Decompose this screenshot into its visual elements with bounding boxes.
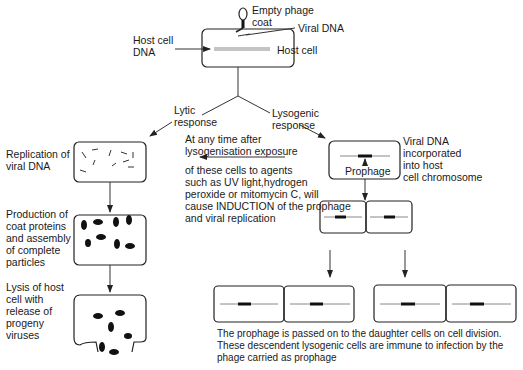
label-line: Empty phage xyxy=(252,4,314,16)
progeny-viruses-icon xyxy=(93,310,132,355)
viral-dna-incorporated-label: Viral DNA incorporated into host cell ch… xyxy=(403,135,482,183)
caption-line: The prophage is passed on to the daughte… xyxy=(217,328,503,340)
host-cell-label: Host cell xyxy=(277,44,317,56)
label-line: of these cells to agents xyxy=(185,164,351,176)
label-line: Replication of xyxy=(6,148,70,160)
label-line: and viral replication xyxy=(185,212,351,224)
induction-note-body: of these cells to agents such as UV ligh… xyxy=(185,164,351,224)
label-line: progeny xyxy=(6,317,64,329)
label-line: into host xyxy=(403,159,482,171)
host-cell-dna-label: Host cell DNA xyxy=(133,34,173,58)
viral-dna-fragments-icon xyxy=(80,149,134,172)
label-line: Production of xyxy=(6,208,71,220)
lytic-response-label: Lytic response xyxy=(174,104,217,128)
label-line: particles xyxy=(6,256,71,268)
label-line: peroxide or mitomycin C, will xyxy=(185,188,351,200)
caption-line: These descendent lysogenic cells are imm… xyxy=(217,340,503,352)
lysis-label: Lysis of host cell with release of proge… xyxy=(6,281,64,341)
label-line: Host cell xyxy=(133,34,173,46)
label-line: such as UV light,hydrogen xyxy=(185,176,351,188)
replication-label: Replication of viral DNA xyxy=(6,148,70,172)
label-line: cell chromosome xyxy=(403,171,482,183)
label-line: response xyxy=(174,116,217,128)
prophage-label: Prophage xyxy=(345,165,391,177)
label-line: incorporated xyxy=(403,147,482,159)
lysogenic-response-label: Lysogenic response xyxy=(272,107,319,131)
caption-line: phage carried as prophage xyxy=(217,352,503,364)
label-line: of complete xyxy=(6,244,71,256)
viral-dna-label: Viral DNA xyxy=(298,22,344,34)
label-line: Viral DNA xyxy=(403,135,482,147)
replication-cell-box xyxy=(74,142,146,182)
second-division-cells xyxy=(214,285,516,322)
induction-note-header: At any time after lysogenisation exposur… xyxy=(185,133,298,157)
label-line: coat proteins xyxy=(6,220,71,232)
caption: The prophage is passed on to the daughte… xyxy=(217,328,503,364)
label-line: response xyxy=(272,119,319,131)
phage-particles-icon xyxy=(81,215,135,249)
label-line: cell with xyxy=(6,293,64,305)
label-line: cause INDUCTION of the prophage xyxy=(185,200,351,212)
label-line: viruses xyxy=(6,329,64,341)
label-line: Lytic xyxy=(174,104,217,116)
label-line: DNA xyxy=(133,46,173,58)
label-line: release of xyxy=(6,305,64,317)
assembly-label: Production of coat proteins and assembly… xyxy=(6,208,71,268)
label-line: viral DNA xyxy=(6,160,70,172)
label-line: lysogenisation exposure xyxy=(185,145,298,157)
label-line: and assembly xyxy=(6,232,71,244)
lytic-arrow xyxy=(150,122,172,136)
label-line: At any time after xyxy=(185,133,298,145)
branch-right xyxy=(238,96,270,113)
label-line: Lysogenic xyxy=(272,107,319,119)
label-line: Lysis of host xyxy=(6,281,64,293)
